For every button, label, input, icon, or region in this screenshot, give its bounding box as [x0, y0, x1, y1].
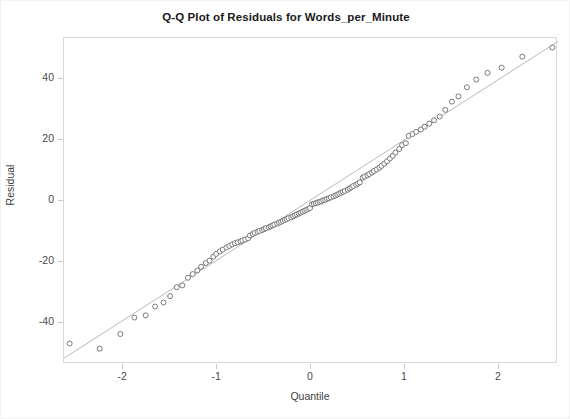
data-point	[185, 275, 190, 280]
data-point	[153, 304, 158, 309]
x-tick-label: -1	[196, 370, 236, 382]
data-point	[132, 315, 137, 320]
data-point	[199, 264, 204, 269]
data-point	[550, 45, 555, 50]
scatter-plot-svg	[64, 38, 558, 364]
x-tick-mark	[498, 364, 499, 369]
y-tick-mark	[58, 78, 63, 79]
data-point	[427, 121, 432, 126]
data-point	[403, 141, 408, 146]
plot-area	[63, 37, 557, 363]
y-tick-label: 40	[11, 71, 54, 83]
data-point	[464, 85, 469, 90]
data-point	[474, 77, 479, 82]
data-point	[143, 313, 148, 318]
x-tick-mark	[310, 364, 311, 369]
data-point	[207, 258, 212, 263]
data-point	[432, 118, 437, 123]
y-tick-label: -40	[11, 315, 54, 327]
data-point	[422, 124, 427, 129]
y-tick-label: -20	[11, 254, 54, 266]
data-point	[414, 129, 419, 134]
x-tick-mark	[404, 364, 405, 369]
x-tick-label: 1	[384, 370, 424, 382]
data-point	[190, 272, 195, 277]
x-axis-label: Quantile	[63, 390, 557, 402]
data-point	[174, 285, 179, 290]
y-tick-mark	[58, 200, 63, 201]
data-point	[437, 114, 442, 119]
data-point	[161, 300, 166, 305]
x-tick-label: -2	[102, 370, 142, 382]
y-tick-mark	[58, 261, 63, 262]
y-tick-mark	[58, 139, 63, 140]
x-tick-label: 0	[290, 370, 330, 382]
x-tick-label: 2	[478, 370, 518, 382]
y-tick-label: 0	[11, 193, 54, 205]
data-point	[456, 94, 461, 99]
data-point	[485, 70, 490, 75]
data-point	[449, 99, 454, 104]
data-point	[180, 283, 185, 288]
chart-canvas: Q-Q Plot of Residuals for Words_per_Minu…	[0, 0, 570, 419]
data-point	[499, 65, 504, 70]
data-point	[443, 107, 448, 112]
data-point	[97, 346, 102, 351]
data-point	[118, 332, 123, 337]
x-tick-mark	[122, 364, 123, 369]
data-point	[520, 54, 525, 59]
normal-reference-line	[64, 41, 558, 358]
y-axis-label: Residual	[4, 155, 16, 215]
data-point	[67, 341, 72, 346]
data-points-group	[67, 45, 555, 351]
page-title: Q-Q Plot of Residuals for Words_per_Minu…	[1, 11, 570, 23]
x-tick-mark	[216, 364, 217, 369]
y-tick-label: 20	[11, 132, 54, 144]
data-point	[357, 180, 362, 185]
data-point	[168, 294, 173, 299]
y-tick-mark	[58, 322, 63, 323]
